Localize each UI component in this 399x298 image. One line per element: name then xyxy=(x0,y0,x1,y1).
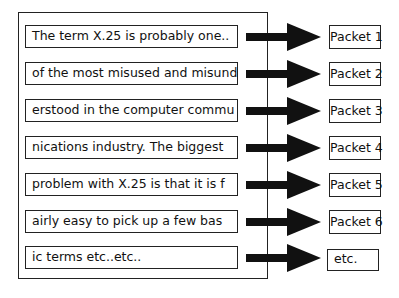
packet-box: Packet 5 xyxy=(329,173,381,197)
packet-row-7: ic terms etc..etc.. etc. xyxy=(0,246,399,270)
message-segment: of the most misused and misund xyxy=(25,62,238,85)
packet-row-6: airly easy to pick up a few bas Packet 6 xyxy=(0,210,399,234)
packet-box: Packet 1 xyxy=(329,25,381,49)
packet-row-1: The term X.25 is probably one.. Packet 1 xyxy=(0,25,399,49)
arrow-right-icon xyxy=(246,244,322,272)
message-segment: ic terms etc..etc.. xyxy=(25,246,238,269)
message-segment: erstood in the computer commu xyxy=(25,99,238,122)
packet-box: Packet 3 xyxy=(329,99,381,123)
packet-box-etc: etc. xyxy=(327,249,379,271)
message-segment: The term X.25 is probably one.. xyxy=(25,25,238,48)
message-segment: problem with X.25 is that it is f xyxy=(25,173,238,196)
arrow-right-icon xyxy=(246,23,322,51)
arrow-right-icon xyxy=(246,97,322,125)
packet-row-5: problem with X.25 is that it is f Packet… xyxy=(0,173,399,197)
packet-row-2: of the most misused and misund Packet 2 xyxy=(0,62,399,86)
message-segment: airly easy to pick up a few bas xyxy=(25,210,238,233)
message-segment: nications industry. The biggest xyxy=(25,136,238,159)
packet-row-4: nications industry. The biggest Packet 4 xyxy=(0,136,399,160)
arrow-right-icon xyxy=(246,134,322,162)
arrow-right-icon xyxy=(246,171,322,199)
packet-row-3: erstood in the computer commu Packet 3 xyxy=(0,99,399,123)
packet-box: Packet 2 xyxy=(329,62,381,86)
packet-box: Packet 4 xyxy=(329,136,381,160)
arrow-right-icon xyxy=(246,60,322,88)
packet-box: Packet 6 xyxy=(329,210,381,234)
arrow-right-icon xyxy=(246,208,322,236)
